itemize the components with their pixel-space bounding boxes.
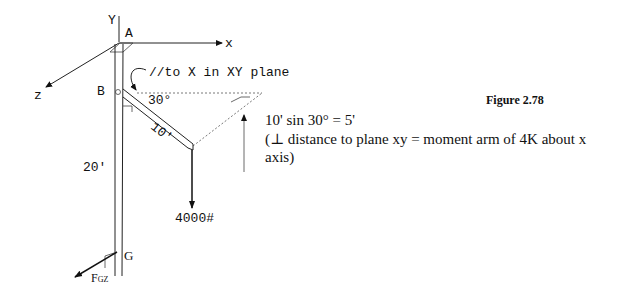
top-plate xyxy=(110,43,133,52)
beam-end-cap-2 xyxy=(188,148,193,150)
point-a-label: A xyxy=(125,26,133,41)
point-g-label: G xyxy=(124,248,133,263)
angle-label: 30° xyxy=(148,93,171,108)
beam-length-label: 10' xyxy=(148,119,176,145)
z-axis-label: z xyxy=(34,88,42,103)
z-axis-arrow xyxy=(46,43,119,87)
equation-description: (⊥ distance to plane xy = moment arm of … xyxy=(265,130,605,166)
figure-caption: Figure 2.78 xyxy=(486,93,544,108)
right-angle-marker-top xyxy=(231,97,250,102)
parallel-note: //to X in XY plane xyxy=(149,65,289,80)
pole-right-edge xyxy=(122,44,123,276)
reaction-label: FGZ xyxy=(91,271,108,285)
load-label: 4000# xyxy=(175,211,214,226)
pin-b-icon xyxy=(116,90,121,95)
y-axis-label: Y xyxy=(108,13,116,28)
equation-text: 10' sin 30° = 5' xyxy=(265,112,355,129)
reaction-label-subscript: GZ xyxy=(98,275,109,284)
curved-pointer-arrow xyxy=(131,68,146,90)
beam-bracket xyxy=(123,106,132,112)
dashed-diagonal-line xyxy=(193,93,262,146)
x-axis-label: x xyxy=(225,36,233,51)
pole-height-label: 20' xyxy=(83,160,106,175)
point-b-label: B xyxy=(97,84,105,99)
